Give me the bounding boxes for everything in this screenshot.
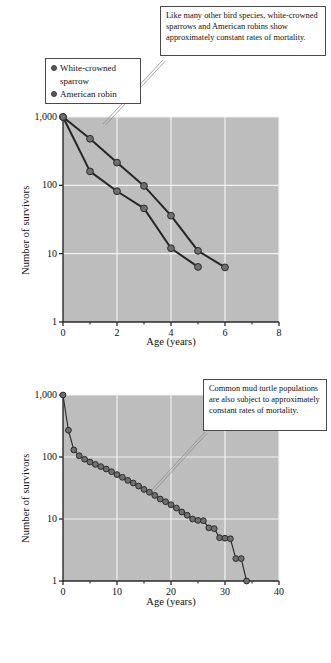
x-tick-label: 20 bbox=[156, 586, 186, 597]
legend-label-robin: American robin bbox=[60, 88, 117, 101]
legend-label-sparrow: White-crowned bbox=[60, 62, 116, 75]
x-tick-label: 0 bbox=[48, 586, 78, 597]
x-tick-label: 0 bbox=[48, 327, 78, 338]
legend-birds: White-crowned sparrow American robin bbox=[45, 58, 141, 104]
x-tick-label: 10 bbox=[102, 586, 132, 597]
legend-marker-icon bbox=[51, 91, 57, 97]
x-tick-label: 8 bbox=[264, 327, 294, 338]
x-tick-label: 40 bbox=[264, 586, 294, 597]
legend-marker-icon bbox=[51, 65, 57, 71]
annotation-birds: Like many other bird species, white-crow… bbox=[160, 6, 326, 56]
y-tick-label: 10 bbox=[17, 248, 57, 259]
x-tick-label: 4 bbox=[156, 327, 186, 338]
y-tick-label: 1 bbox=[17, 316, 57, 327]
y-tick-label: 10 bbox=[17, 513, 57, 524]
x-tick-label: 2 bbox=[102, 327, 132, 338]
chart-panel-birds: Number of survivors Age (years) White-cr… bbox=[0, 0, 331, 348]
y-tick-label: 100 bbox=[17, 179, 57, 190]
legend-item-sparrow: White-crowned bbox=[51, 62, 135, 75]
y-axis-label-turtle: Number of survivors bbox=[20, 454, 31, 543]
y-tick-label: 1 bbox=[17, 575, 57, 586]
x-axis-label-turtle: Age (years) bbox=[63, 596, 279, 607]
y-tick-label: 100 bbox=[17, 451, 57, 462]
x-tick-label: 30 bbox=[210, 586, 240, 597]
y-tick-label: 1,000 bbox=[17, 389, 57, 400]
legend-item-robin: American robin bbox=[51, 88, 135, 101]
x-tick-label: 6 bbox=[210, 327, 240, 338]
y-tick-label: 1,000 bbox=[17, 111, 57, 122]
legend-label-sparrow-cont: sparrow bbox=[51, 75, 135, 88]
annotation-turtle: Common mud turtle populations are also s… bbox=[203, 379, 327, 431]
y-axis-label-birds: Number of survivors bbox=[20, 186, 31, 275]
